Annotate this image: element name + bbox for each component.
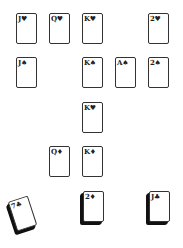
card-queen-diamonds[interactable]: Q♦ — [49, 146, 70, 177]
card-two-spades[interactable]: 2♠ — [148, 57, 169, 88]
card-label: J♠ — [18, 58, 27, 67]
card-label: Q♥ — [51, 14, 63, 23]
card-label: 2♥ — [150, 14, 161, 23]
card-jack-spades[interactable]: J♠ — [16, 57, 37, 88]
card-king-diamonds[interactable]: K♦ — [82, 146, 103, 177]
card-label: K♦ — [84, 147, 96, 156]
card-label: Q♦ — [51, 147, 63, 156]
card-label: 7♣ — [10, 199, 23, 211]
card-label: 2♦ — [85, 192, 96, 201]
card-label: A♠ — [117, 58, 128, 67]
card-king-hearts-2[interactable]: K♥ — [82, 102, 103, 133]
stack-seven-clubs[interactable]: 7♣ — [8, 196, 38, 232]
card-label: K♥ — [84, 103, 96, 112]
card-jack-hearts[interactable]: J♥ — [16, 13, 37, 44]
card-king-spades[interactable]: K♠ — [82, 57, 103, 88]
card-king-hearts[interactable]: K♥ — [82, 13, 103, 44]
card-ace-spades[interactable]: A♠ — [115, 57, 136, 88]
card-label: J♥ — [18, 14, 27, 23]
stack-two-diamonds[interactable]: 2♦ — [83, 191, 104, 222]
card-label: J♣ — [151, 192, 160, 201]
card-label: K♠ — [84, 58, 96, 67]
card-label: 2♠ — [150, 58, 161, 67]
card-label: K♥ — [84, 14, 96, 23]
card-two-hearts[interactable]: 2♥ — [148, 13, 169, 44]
stack-jack-clubs[interactable]: J♣ — [149, 191, 170, 222]
card-queen-hearts[interactable]: Q♥ — [49, 13, 70, 44]
